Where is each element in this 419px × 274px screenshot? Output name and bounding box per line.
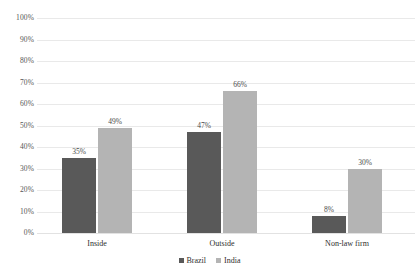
chart-legend: BrazilIndia: [0, 256, 419, 265]
bar-brazil-non-law-firm: [312, 216, 346, 233]
legend-label: India: [224, 256, 240, 265]
y-axis-tick-label: 60%: [0, 100, 34, 108]
y-axis-tick-label: 10%: [0, 208, 34, 216]
x-axis-category-label: Inside: [47, 239, 147, 249]
plot-area: 35%49%47%66%8%30%: [37, 18, 415, 233]
bar-brazil-inside: [62, 158, 96, 233]
gridline: [37, 18, 415, 19]
bar-brazil-outside: [187, 132, 221, 233]
x-axis-category-label: Non-law firm: [297, 239, 397, 249]
bar-chart: 100%90%80%70%60%50%40%30%20%10%0% 35%49%…: [0, 0, 419, 274]
gridline: [37, 40, 415, 41]
gridline: [37, 233, 415, 234]
legend-swatch-icon: [179, 258, 184, 263]
y-axis-tick-label: 40%: [0, 143, 34, 151]
y-axis-tick-label: 0%: [0, 229, 34, 237]
y-axis-tick-label: 70%: [0, 79, 34, 87]
bar-value-label: 47%: [187, 121, 221, 130]
y-axis-tick-label: 100%: [0, 14, 34, 22]
bar-india-non-law-firm: [348, 169, 382, 234]
bar-value-label: 30%: [348, 158, 382, 167]
y-axis-tick-label: 90%: [0, 36, 34, 44]
legend-item-brazil[interactable]: Brazil: [179, 256, 207, 265]
bar-value-label: 49%: [98, 117, 132, 126]
bar-value-label: 35%: [62, 147, 96, 156]
x-axis-category-label: Outside: [172, 239, 272, 249]
legend-swatch-icon: [216, 258, 221, 263]
y-axis-tick-label: 50%: [0, 122, 34, 130]
y-axis: 100%90%80%70%60%50%40%30%20%10%0%: [0, 18, 34, 233]
bar-value-label: 8%: [312, 205, 346, 214]
y-axis-tick-label: 80%: [0, 57, 34, 65]
gridline: [37, 61, 415, 62]
y-axis-tick-label: 30%: [0, 165, 34, 173]
y-axis-tick-label: 20%: [0, 186, 34, 194]
bar-india-inside: [98, 128, 132, 233]
legend-label: Brazil: [187, 256, 207, 265]
bar-india-outside: [223, 91, 257, 233]
legend-item-india[interactable]: India: [216, 256, 240, 265]
bar-value-label: 66%: [223, 80, 257, 89]
